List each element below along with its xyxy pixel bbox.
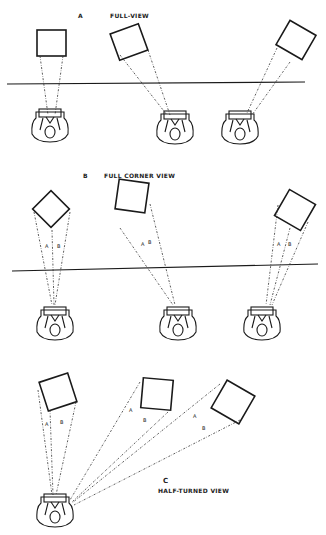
viewer-icon: [37, 307, 73, 340]
angle-label-a: A: [193, 413, 197, 419]
section-c-letter: C: [163, 477, 168, 485]
section-a-title: FULL-VIEW: [110, 12, 149, 19]
viewer-icon: [222, 111, 258, 144]
section-c: C HALF-TURNED VIEW A B A B A B: [37, 373, 255, 527]
section-c-title: HALF-TURNED VIEW: [158, 487, 229, 494]
angle-label-a: A: [141, 241, 145, 247]
angle-label-b: B: [60, 419, 64, 425]
object-box: [37, 30, 66, 56]
viewer-icon: [157, 111, 193, 144]
angle-label-a: A: [129, 407, 133, 413]
angle-label-b: B: [57, 243, 61, 249]
viewer-icon: [32, 109, 68, 142]
section-a: A FULL-VIEW: [7, 12, 316, 144]
section-b: B FULL CORNER VIEW A B A B A B: [12, 172, 318, 340]
diagram-canvas: A FULL-VIEW B FULL CORNER VIEW A B A B A…: [0, 0, 326, 535]
angle-label-b: B: [288, 241, 292, 247]
viewer-icon: [37, 494, 73, 527]
angle-label-a: A: [277, 241, 281, 247]
angle-label-b: B: [143, 417, 147, 423]
angle-label-a: A: [45, 421, 49, 427]
angle-label-a: A: [45, 243, 49, 249]
section-b-title: FULL CORNER VIEW: [104, 172, 175, 179]
section-b-letter: B: [83, 172, 88, 179]
viewer-icon: [160, 307, 196, 340]
angle-label-b: B: [202, 425, 206, 431]
viewer-icon: [244, 307, 280, 340]
angle-label-b: B: [148, 239, 152, 245]
section-a-letter: A: [78, 12, 83, 19]
